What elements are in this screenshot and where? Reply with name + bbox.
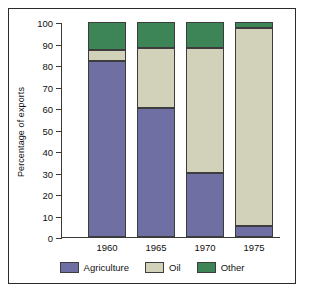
- bar-segment-oil[interactable]: [88, 50, 126, 61]
- y-tick-mark: [56, 45, 61, 46]
- bar-segment-agriculture[interactable]: [88, 61, 126, 237]
- y-tick-label: 40: [42, 147, 53, 158]
- x-tick-label: 1965: [137, 242, 175, 253]
- plot-area: Percentage of exports 010203040506070809…: [9, 9, 295, 283]
- y-tick-mark: [56, 23, 61, 24]
- y-tick-label: 0: [48, 233, 53, 244]
- bar-segment-oil[interactable]: [186, 48, 224, 173]
- x-tick-label: 1975: [235, 242, 273, 253]
- y-tick-label: 60: [42, 104, 53, 115]
- y-axis-label: Percentage of exports: [16, 42, 26, 222]
- legend-item[interactable]: Agriculture: [60, 262, 129, 273]
- bar-segment-oil[interactable]: [137, 48, 175, 108]
- y-tick-label: 90: [42, 39, 53, 50]
- y-tick-mark: [56, 88, 61, 89]
- y-tick-mark: [56, 131, 61, 132]
- legend-item[interactable]: Oil: [145, 262, 181, 273]
- x-axis-line: [61, 237, 280, 238]
- bar-segment-agriculture[interactable]: [235, 226, 273, 237]
- chart-figure: Percentage of exports 010203040506070809…: [8, 8, 296, 284]
- y-tick-mark: [56, 217, 61, 218]
- axes: 0102030405060708090100 1960196519701975: [61, 23, 279, 238]
- legend-label: Agriculture: [84, 262, 129, 273]
- legend-swatch-icon: [60, 262, 79, 273]
- x-tick-label: 1970: [186, 242, 224, 253]
- y-tick-mark: [56, 66, 61, 67]
- bar-segment-other[interactable]: [88, 22, 126, 50]
- y-tick-mark: [56, 238, 61, 239]
- legend-label: Oil: [169, 262, 181, 273]
- y-tick-mark: [56, 174, 61, 175]
- y-axis-line: [61, 23, 62, 239]
- chart-legend: AgricultureOilOther: [9, 262, 295, 273]
- y-tick-label: 80: [42, 61, 53, 72]
- y-tick-mark: [56, 109, 61, 110]
- y-tick-mark: [56, 152, 61, 153]
- bar-segment-other[interactable]: [186, 22, 224, 48]
- bar-segment-agriculture[interactable]: [186, 173, 224, 238]
- y-tick-mark: [56, 195, 61, 196]
- legend-label: Other: [221, 262, 245, 273]
- legend-swatch-icon: [145, 262, 164, 273]
- y-tick-label: 20: [42, 190, 53, 201]
- legend-item[interactable]: Other: [197, 262, 245, 273]
- x-tick-label: 1960: [88, 242, 126, 253]
- y-tick-label: 50: [42, 125, 53, 136]
- bar-segment-other[interactable]: [137, 22, 175, 48]
- y-tick-label: 100: [37, 18, 53, 29]
- y-tick-label: 70: [42, 82, 53, 93]
- bar-segment-oil[interactable]: [235, 28, 273, 226]
- y-tick-label: 30: [42, 168, 53, 179]
- bar-segment-agriculture[interactable]: [137, 108, 175, 237]
- legend-swatch-icon: [197, 262, 216, 273]
- y-tick-label: 10: [42, 211, 53, 222]
- bar-segment-other[interactable]: [235, 22, 273, 28]
